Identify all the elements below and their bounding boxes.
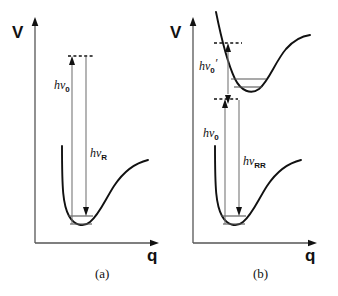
panel-a: V q hν0 hνR (a xyxy=(12,17,159,281)
panel-b-scattered-photon-arrow xyxy=(236,100,242,216)
panel-b-incident-photon-arrow xyxy=(222,99,228,224)
panel-b-excited-spacing-label: hν0′ xyxy=(199,56,218,75)
panel-b-scattered-photon-label: hνRR xyxy=(243,154,266,170)
panel-b-y-axis-label: V xyxy=(170,23,182,42)
panel-a-scattered-photon-label: hνR xyxy=(90,146,107,162)
panel-b-y-axis xyxy=(190,17,197,243)
raman-energy-diagram: V q hν0 hνR (a xyxy=(0,0,338,296)
panel-a-incident-photon-label: hν0 xyxy=(54,78,70,94)
panel-b-ground-state-curve xyxy=(215,146,301,225)
panel-a-y-axis-label: V xyxy=(12,23,24,42)
panel-a-y-axis xyxy=(32,17,39,243)
panel-a-x-axis xyxy=(35,240,159,247)
panel-a-x-axis-label: q xyxy=(147,246,157,265)
panel-b: V q hν0′ xyxy=(170,12,317,281)
panel-b-incident-photon-label: hν0 xyxy=(203,126,219,142)
panel-a-incident-photon-arrow xyxy=(69,56,75,224)
panel-b-x-axis xyxy=(193,240,317,247)
panel-b-x-axis-label: q xyxy=(305,246,315,265)
panel-a-scattered-photon-arrow xyxy=(83,57,89,216)
panel-b-caption: (b) xyxy=(253,266,268,281)
panel-a-caption: (a) xyxy=(95,266,109,281)
